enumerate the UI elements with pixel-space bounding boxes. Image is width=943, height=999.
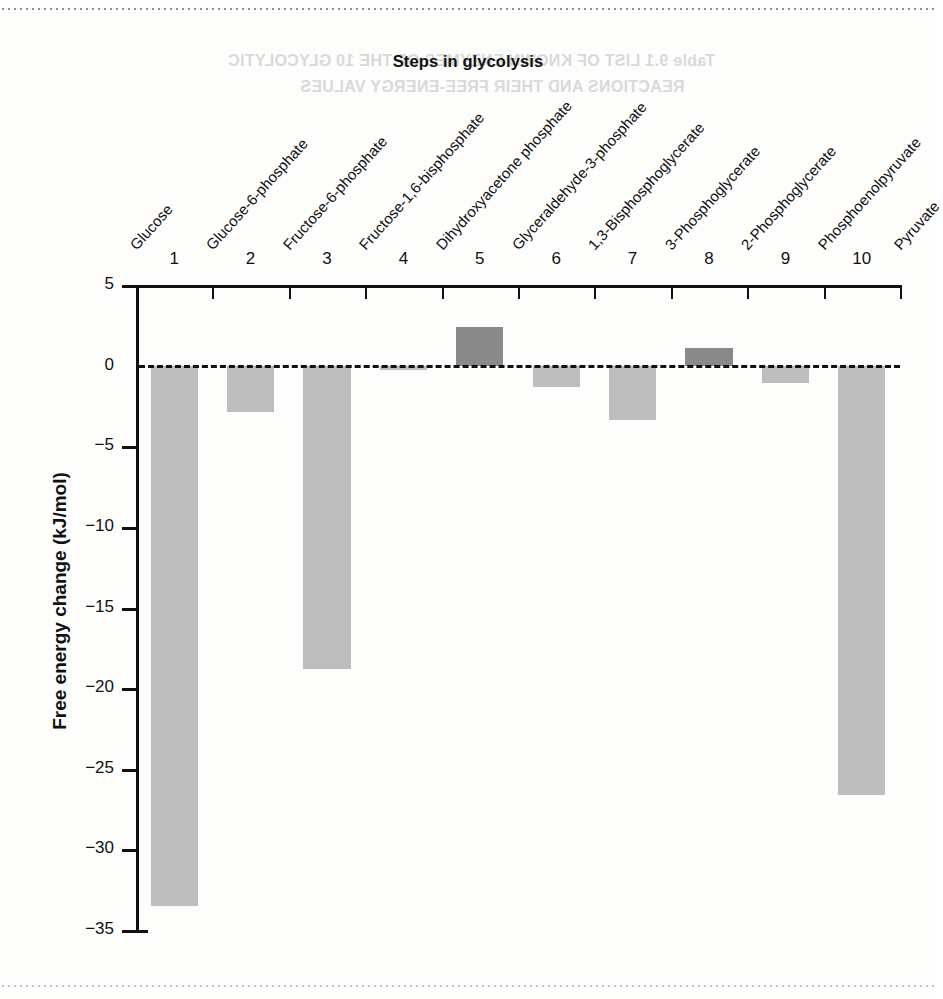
y-axis-title: Free energy change (kJ/mol) [49,391,71,811]
x-axis-step-number: 6 [541,249,571,269]
y-axis-tick-mark [122,849,136,852]
y-axis-tick-label: 5 [105,274,114,294]
y-axis-tick-label: −5 [95,435,114,455]
bar [533,366,580,387]
y-axis-tick-label: −20 [85,677,114,697]
x-axis-step-number: 3 [312,249,342,269]
y-axis-tick-label: −35 [85,919,114,939]
x-axis-tick-mark [824,285,826,299]
y-axis-bottom-cap [136,930,148,933]
x-axis-tick-mark [442,285,444,299]
x-axis-category-label: Glucose [126,201,175,253]
y-axis-tick-label: −30 [85,838,114,858]
y-axis-tick-label: 0 [105,355,114,375]
x-axis-tick-mark [900,285,902,299]
zero-reference-line [139,365,900,368]
x-axis-tick-mark [671,285,673,299]
bar [303,366,350,669]
x-axis-tick-mark [136,285,138,299]
bar [685,348,732,366]
bar [456,327,503,366]
x-axis-step-number: 5 [465,249,495,269]
y-axis-tick-mark [122,930,136,933]
x-axis-tick-mark [365,285,367,299]
x-axis-step-number: 1 [159,249,189,269]
x-axis-step-number: 4 [388,249,418,269]
x-axis-category-label: Glyceraldehyde-3-phosphate [508,98,650,253]
bar [609,366,656,421]
y-axis-tick-mark [122,688,136,691]
y-axis-tick-mark [122,446,136,449]
y-axis-tick-mark [122,608,136,611]
y-axis-tick-label: −10 [85,516,114,536]
x-axis-tick-mark [212,285,214,299]
y-axis-tick-mark [122,285,136,288]
x-axis-tick-mark [289,285,291,299]
bar [227,366,274,413]
bar [762,366,809,384]
y-axis-tick-label: −25 [85,758,114,778]
x-axis-step-number: 2 [236,249,266,269]
x-axis-tick-mark [518,285,520,299]
y-axis-tick-mark [122,769,136,772]
x-axis-category-label: Pyruvate [890,198,942,253]
bar [151,366,198,906]
x-axis-tick-mark [594,285,596,299]
y-axis-tick-mark [122,527,136,530]
bar [838,366,885,795]
x-axis-step-number: 10 [847,249,877,269]
x-axis-step-number: 9 [770,249,800,269]
x-axis-tick-mark [747,285,749,299]
x-axis-step-number: 7 [618,249,648,269]
x-axis-category-label: Fructose-1,6-bisphosphate [356,109,488,253]
y-axis-tick-label: −15 [85,597,114,617]
x-axis-step-number: 8 [694,249,724,269]
x-axis-category-label: Dihydroxyacetone phosphate [432,97,575,253]
